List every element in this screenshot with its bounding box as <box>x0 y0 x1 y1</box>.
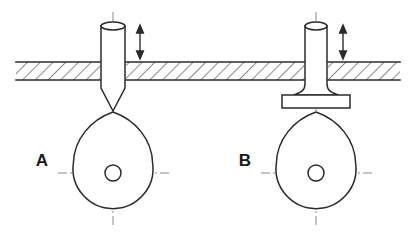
follower-rod-a-top-ellipse <box>101 22 125 30</box>
cam-a-bore <box>105 165 121 181</box>
cam-b-outline <box>276 112 356 209</box>
wall-hatch-middle <box>126 62 304 80</box>
motion-arrow-b-head-up <box>340 25 347 33</box>
motion-arrow-b <box>340 25 347 59</box>
cam-a <box>73 112 153 209</box>
motion-arrow-b-head-down <box>340 51 347 59</box>
figure-canvas: A B <box>0 0 415 248</box>
cam-b <box>276 112 356 209</box>
engineering-figure: A B <box>0 0 415 248</box>
cam-a-outline <box>73 112 153 209</box>
follower-rod-a <box>101 22 125 111</box>
motion-arrow-a-head-up <box>137 25 144 33</box>
assembly-a: A <box>36 22 153 209</box>
follower-rod-a-body <box>101 26 125 111</box>
motion-arrow-a <box>137 25 144 59</box>
follower-flat-face-plate-b <box>282 95 350 108</box>
variant-label-a: A <box>36 151 48 170</box>
variant-label-b: B <box>239 151 251 170</box>
wall-hatch-right <box>328 62 400 80</box>
motion-arrow-a-head-down <box>137 51 144 59</box>
wall-hatch-left <box>16 62 100 80</box>
assembly-b: B <box>239 22 356 209</box>
cam-b-bore <box>308 165 324 181</box>
follower-rod-b-body <box>294 26 338 95</box>
follower-rod-b-top-ellipse <box>305 22 327 30</box>
sectioned-guide-wall <box>16 62 400 80</box>
follower-rod-b <box>294 22 338 95</box>
